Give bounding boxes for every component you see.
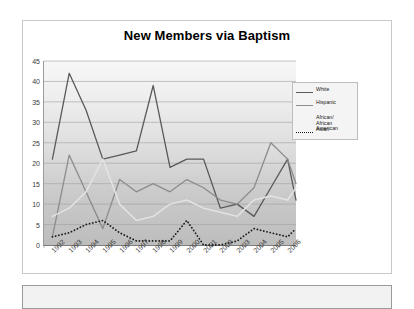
legend-item-4[interactable]: Asian — [296, 127, 358, 136]
y-axis-tick-label: 15 — [32, 180, 40, 187]
y-axis-tick-label: 40 — [32, 78, 40, 85]
series-line-3 — [52, 159, 296, 220]
y-axis-tick-label: 25 — [32, 139, 40, 146]
y-axis-tick-label: 0 — [36, 242, 40, 249]
y-axis-tick-label: 35 — [32, 98, 40, 105]
series-line-2 — [52, 143, 296, 237]
legend-label: Asian — [316, 127, 329, 133]
y-axis-tick-label: 45 — [32, 58, 40, 65]
legend-item-2[interactable]: Hispanic — [296, 100, 358, 109]
y-axis-tick-label: 5 — [36, 221, 40, 228]
legend-item-1[interactable]: White — [296, 87, 358, 96]
y-axis-tick-label: 10 — [32, 201, 40, 208]
legend-label: White — [316, 87, 329, 93]
plot-area: 0510152025303540451992199319941995199619… — [43, 61, 296, 246]
legend-label: Hispanic — [316, 100, 336, 106]
y-axis-tick-label: 30 — [32, 119, 40, 126]
chart-legend: WhiteHispanicAfrican/ African AmericanAs… — [292, 82, 358, 140]
legend-swatch-icon — [296, 101, 313, 109]
legend-swatch-icon — [296, 128, 313, 136]
page-title: New Members via Baptism — [23, 28, 391, 43]
y-axis-tick-label: 20 — [32, 160, 40, 167]
secondary-panel — [22, 285, 392, 309]
legend-swatch-icon — [296, 88, 313, 96]
chart-lines — [44, 61, 296, 245]
series-line-1 — [52, 73, 296, 216]
chart-panel: New Members via Baptism 0510152025303540… — [22, 20, 392, 274]
